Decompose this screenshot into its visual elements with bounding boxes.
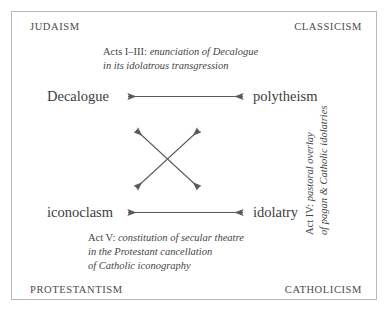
caption-act-v-line-1: Act V: constitution of secular theatre (88, 231, 244, 245)
caption-act-v-line-2: in the Protestant cancellation (88, 245, 244, 259)
caption-acts-i-iii-lead: Acts I–III: (103, 46, 147, 57)
semiotic-square-figure: JUDAISM CLASSICISM PROTESTANTISM CATHOLI… (0, 0, 392, 316)
corner-label-protestantism: PROTESTANTISM (30, 284, 123, 295)
corner-label-catholicism: CATHOLICISM (285, 284, 362, 295)
caption-act-iv-lead: Act IV: (304, 204, 315, 235)
node-idolatry: idolatry (253, 204, 298, 221)
caption-act-v: Act V: constitution of secular theatre i… (88, 231, 244, 273)
caption-acts-i-iii-line-2: in its idolatrous transgression (103, 59, 258, 73)
corner-label-judaism: JUDAISM (30, 21, 80, 32)
node-iconoclasm: iconoclasm (47, 204, 113, 221)
caption-act-iv: Act IV: pastoral overlay of pagan & Cath… (303, 95, 331, 235)
caption-act-iv-rest: pastoral overlay (304, 132, 315, 204)
caption-act-iv-line-1: Act IV: pastoral overlay (303, 95, 317, 235)
caption-act-v-lead: Act V: (88, 232, 115, 243)
caption-act-v-line-3: of Catholic iconography (88, 259, 244, 273)
caption-acts-i-iii-rest: enunciation of Decalogue (147, 46, 258, 57)
node-decalogue: Decalogue (47, 88, 109, 105)
caption-acts-i-iii-line-1: Acts I–III: enunciation of Decalogue (103, 45, 258, 59)
caption-act-v-rest: constitution of secular theatre (115, 232, 244, 243)
caption-acts-i-iii: Acts I–III: enunciation of Decalogue in … (103, 45, 258, 73)
caption-act-iv-line-2: of pagan & Catholic idolatries (317, 95, 331, 235)
corner-label-classicism: CLASSICISM (294, 21, 362, 32)
